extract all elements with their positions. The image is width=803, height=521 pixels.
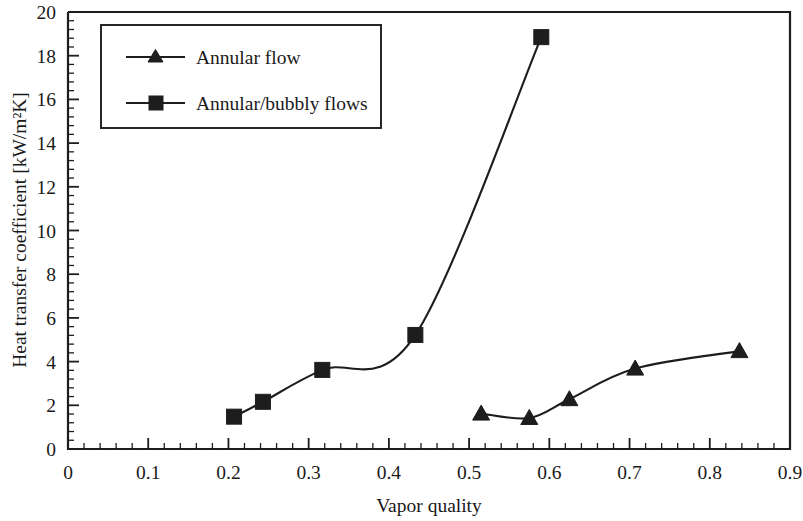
x-tick-label: 0.1 xyxy=(136,462,160,483)
square-data-marker xyxy=(408,327,423,342)
x-axis-ticks xyxy=(68,438,790,449)
y-tick-label: 20 xyxy=(37,2,57,23)
square-data-marker xyxy=(227,409,242,424)
y-tick-label: 2 xyxy=(46,395,56,416)
x-tick-label: 0.7 xyxy=(617,462,642,483)
triangle-data-marker xyxy=(473,405,490,420)
y-axis-title: Heat transfer coefficient [kW/m²K] xyxy=(9,92,30,368)
legend-label-1: Annular flow xyxy=(196,47,301,68)
x-axis-title: Vapor quality xyxy=(376,495,482,516)
triangle-data-marker xyxy=(731,343,748,358)
y-tick-label: 12 xyxy=(37,177,57,198)
triangle-data-marker xyxy=(561,391,578,406)
chart-figure: 00.10.20.30.40.50.60.70.80.9 02468101214… xyxy=(0,0,803,521)
square-data-marker xyxy=(315,362,330,377)
x-tick-label: 0.2 xyxy=(216,462,240,483)
y-tick-label: 16 xyxy=(37,89,57,110)
y-tick-label: 18 xyxy=(37,46,57,67)
chart-legend: Annular flow Annular/bubbly flows xyxy=(101,25,381,128)
x-tick-label: 0.9 xyxy=(778,462,802,483)
square-data-marker xyxy=(534,30,549,45)
x-tick-label: 0.8 xyxy=(698,462,722,483)
y-axis-ticks xyxy=(68,12,79,449)
legend-label-2: Annular/bubbly flows xyxy=(196,93,368,114)
chart-canvas: 00.10.20.30.40.50.60.70.80.9 02468101214… xyxy=(0,0,803,521)
series-line xyxy=(481,351,739,418)
y-tick-label: 4 xyxy=(46,352,56,373)
x-tick-label: 0.3 xyxy=(296,462,320,483)
square-data-marker xyxy=(255,394,270,409)
y-tick-label: 0 xyxy=(46,439,56,460)
x-tick-label: 0.4 xyxy=(377,462,402,483)
x-tick-label: 0.6 xyxy=(537,462,562,483)
y-tick-label: 8 xyxy=(46,264,56,285)
y-tick-label: 6 xyxy=(46,308,56,329)
y-tick-label: 14 xyxy=(37,133,57,154)
x-tick-label: 0.5 xyxy=(457,462,481,483)
y-tick-label: 10 xyxy=(37,221,57,242)
x-axis-tick-labels: 00.10.20.30.40.50.60.70.80.9 xyxy=(63,462,802,483)
y-axis-tick-labels: 02468101214161820 xyxy=(37,2,57,460)
square-marker-icon xyxy=(149,96,163,110)
x-tick-label: 0 xyxy=(63,462,73,483)
series-annular-flow xyxy=(473,343,748,425)
